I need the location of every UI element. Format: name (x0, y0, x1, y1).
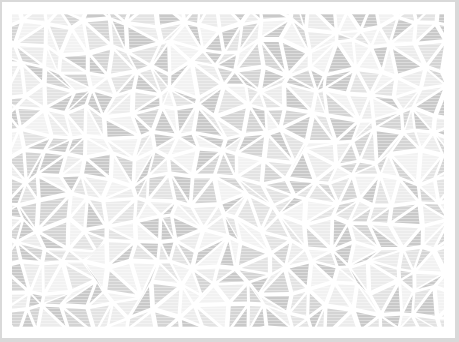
tile-stripe-overlay (12, 207, 21, 217)
tile-stripe-overlay (12, 246, 19, 264)
tile-stripe-overlay (66, 285, 94, 305)
mosaic-canvas (12, 14, 444, 327)
tile-stripe-overlay (293, 14, 303, 26)
mosaic-tiles (12, 14, 444, 327)
tile-stripe-overlay (108, 293, 136, 301)
tile-stripe-overlay (131, 14, 156, 25)
tile-stripe-overlay (261, 14, 285, 19)
tile-stripe-overlay (290, 154, 312, 179)
tile-stripe-overlay (439, 14, 444, 26)
tile-stripe-overlay (183, 308, 200, 324)
tile-stripe-overlay (384, 50, 394, 74)
tile-stripe-overlay (12, 47, 19, 60)
tile-stripe-overlay (440, 320, 444, 327)
tile-stripe-overlay (201, 14, 217, 27)
tile-stripe-overlay (436, 119, 444, 131)
tile-stripe-overlay (377, 131, 399, 158)
tile-stripe-overlay (155, 312, 175, 327)
tile-stripe-overlay (187, 14, 198, 23)
tile-stripe-overlay (240, 271, 266, 281)
tile-stripe-overlay (27, 14, 45, 21)
tile-stripe-overlay (283, 218, 304, 243)
tile-stripe-overlay (12, 311, 25, 327)
tile-stripe-overlay (86, 14, 106, 18)
tile-stripe-overlay (241, 181, 269, 202)
mosaic-frame (2, 2, 455, 338)
triangle-mosaic (12, 14, 444, 327)
tile-stripe-overlay (437, 177, 444, 199)
tile-stripe-overlay (12, 23, 19, 41)
tile-stripe-overlay (420, 14, 437, 21)
tile-stripe-overlay (251, 277, 268, 292)
tile-stripe-overlay (245, 14, 259, 23)
tile-stripe-overlay (356, 288, 376, 312)
tile-stripe-overlay (173, 264, 190, 282)
tile-stripe-overlay (174, 218, 198, 237)
tile-stripe-overlay (363, 14, 377, 28)
tile-stripe-overlay (218, 14, 238, 27)
tile-stripe-overlay (87, 264, 105, 286)
tile-stripe-overlay (174, 67, 196, 95)
tile-stripe-overlay (401, 14, 414, 21)
tile-stripe-overlay (207, 218, 226, 234)
tile-stripe-overlay (283, 133, 303, 159)
tile-stripe-overlay (437, 289, 444, 313)
tile-stripe-overlay (437, 158, 444, 176)
tile-stripe-overlay (158, 14, 180, 25)
